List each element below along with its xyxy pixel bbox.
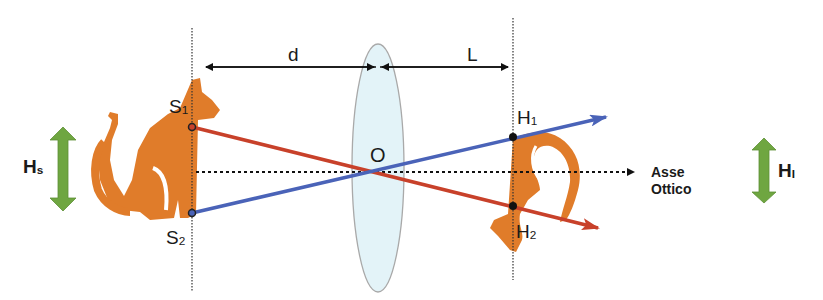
point-s1 [189,124,196,131]
label-hs: Hs [23,157,43,176]
point-h2 [509,202,517,210]
image-height-arrow-icon [752,138,776,203]
point-h1 [509,133,517,141]
point-s2 [189,210,196,217]
object-height-arrow-icon [50,127,76,211]
label-h2: H2 [516,222,536,241]
label-s1: S1 [169,97,188,116]
label-l: L [467,45,478,64]
label-d: d [288,45,299,64]
label-optical-axis: Asse Ottico [651,164,691,198]
label-s2: S2 [166,228,185,247]
label-o: O [370,145,386,165]
label-hi: HI [778,161,795,180]
lens-diagram: d L S1 S2 H1 H2 O Hs HI Asse Ottico [0,0,823,300]
object-cat-icon [95,78,220,220]
label-h1: H1 [517,108,537,127]
